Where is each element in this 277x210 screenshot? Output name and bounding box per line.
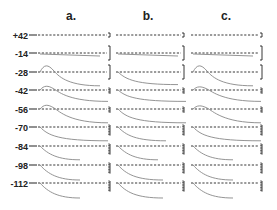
- current-trace: [118, 54, 178, 56]
- current-trace: [193, 54, 253, 56]
- trace-row: [116, 46, 184, 60]
- current-trace: [193, 106, 261, 123]
- current-trace: [118, 183, 163, 198]
- row-label: -56: [15, 105, 28, 115]
- current-trace: [118, 146, 158, 160]
- current-trace: [118, 72, 178, 85]
- current-trace: [118, 109, 186, 123]
- row-label: -14: [15, 49, 28, 59]
- trace-row: [116, 33, 184, 37]
- current-trace: [193, 127, 261, 141]
- row-label: -70: [15, 123, 28, 133]
- trace-row: [116, 88, 186, 101]
- trace-row: [116, 65, 184, 85]
- row-label: +42: [13, 31, 28, 41]
- current-trace: [193, 66, 253, 86]
- row-label: -98: [15, 161, 28, 171]
- trace-row: [191, 33, 262, 37]
- trace-row: [38, 181, 110, 198]
- trace-row: [191, 163, 262, 180]
- current-trace: [40, 54, 100, 56]
- row-label: -42: [15, 86, 28, 96]
- trace-row: [191, 181, 262, 198]
- current-trace: [40, 183, 80, 198]
- trace-row: [191, 106, 262, 123]
- row-label: -28: [15, 68, 28, 78]
- trace-row: [38, 125, 110, 141]
- trace-row: [38, 33, 110, 37]
- current-trace: [40, 146, 80, 160]
- row-label: -112: [10, 179, 28, 189]
- row-label: -84: [15, 142, 28, 152]
- trace-row: [38, 144, 110, 160]
- trace-row: [191, 46, 262, 60]
- current-trace: [40, 165, 80, 180]
- trace-row: [38, 65, 110, 86]
- figure: a.b.c.+42-14-28-42-56-70-84-98-112: [0, 0, 277, 210]
- panel-label: a.: [66, 9, 76, 23]
- trace-row: [116, 181, 184, 198]
- trace-row: [116, 107, 186, 123]
- trace-row: [191, 87, 262, 102]
- current-trace: [193, 165, 233, 180]
- current-trace: [40, 66, 100, 86]
- current-trace: [40, 127, 108, 141]
- trace-row: [116, 125, 184, 141]
- current-trace: [40, 105, 108, 123]
- trace-row: [38, 46, 110, 60]
- current-trace: [193, 146, 233, 160]
- trace-row: [116, 144, 184, 160]
- trace-row: [191, 125, 262, 141]
- trace-row: [191, 144, 262, 160]
- trace-row: [38, 86, 110, 101]
- panel-label: c.: [221, 9, 231, 23]
- current-trace: [40, 86, 108, 101]
- trace-row: [38, 163, 110, 180]
- trace-row: [38, 105, 110, 123]
- trace-row: [116, 163, 184, 180]
- panel-label: b.: [143, 9, 154, 23]
- current-trace: [193, 87, 261, 102]
- current-trace: [193, 183, 233, 198]
- current-trace: [118, 165, 163, 180]
- trace-chart: a.b.c.+42-14-28-42-56-70-84-98-112: [0, 0, 277, 210]
- current-trace: [118, 127, 166, 141]
- current-trace: [118, 90, 186, 101]
- trace-row: [191, 65, 262, 86]
